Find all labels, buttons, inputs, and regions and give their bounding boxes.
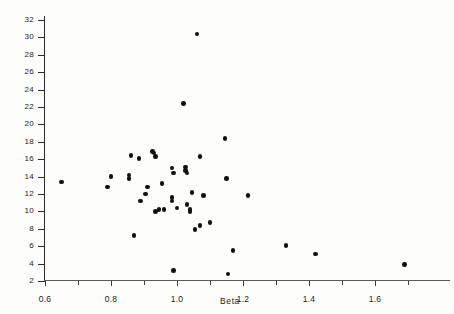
y-tick-mark	[38, 177, 44, 178]
y-tick-label: 28	[0, 50, 34, 60]
x-tick-mark	[111, 281, 112, 286]
y-tick-mark	[38, 211, 44, 212]
data-point	[226, 272, 231, 277]
data-point	[127, 176, 132, 181]
y-tick-mark	[38, 20, 44, 21]
y-tick-label: 32	[0, 15, 34, 25]
y-tick-label-text: 24	[4, 85, 34, 94]
y-tick-label-text: 12	[4, 189, 34, 198]
x-tick-mark	[309, 281, 310, 286]
x-tick-mark	[243, 281, 244, 286]
y-tick-label-text: 6	[4, 241, 34, 250]
y-tick-label-text: 18	[4, 137, 34, 146]
data-point	[109, 174, 114, 179]
y-tick-label: 22	[0, 102, 34, 112]
data-point	[170, 199, 175, 204]
x-minor-tick-mark	[276, 281, 277, 285]
y-tick-mark	[38, 90, 44, 91]
y-tick-mark	[38, 246, 44, 247]
data-point	[201, 193, 206, 198]
data-point	[198, 154, 203, 159]
y-tick-label: 4	[0, 259, 34, 269]
y-tick-label-text: 2	[4, 276, 34, 285]
data-point	[132, 233, 137, 238]
data-point	[231, 248, 236, 253]
y-tick-label-text: 4	[4, 259, 34, 268]
data-point	[224, 176, 229, 181]
data-point	[313, 252, 318, 257]
y-tick-mark	[38, 194, 44, 195]
data-point	[162, 207, 167, 212]
data-point	[171, 171, 176, 176]
y-tick-mark	[38, 37, 44, 38]
x-minor-tick-mark	[210, 281, 211, 285]
y-tick-label: 30	[0, 32, 34, 42]
data-point	[181, 101, 186, 106]
y-tick-mark	[38, 107, 44, 108]
data-point	[223, 136, 228, 141]
data-point	[59, 180, 64, 185]
data-point	[185, 171, 190, 176]
x-axis-line	[44, 280, 450, 281]
data-point	[284, 243, 289, 248]
x-minor-tick-mark	[408, 281, 409, 285]
data-point	[175, 206, 180, 211]
data-point	[170, 166, 175, 171]
y-tick-label: 8	[0, 224, 34, 234]
y-tick-mark	[38, 124, 44, 125]
y-tick-mark	[38, 281, 44, 282]
x-axis-title: Beta	[45, 296, 415, 306]
y-tick-label: 24	[0, 85, 34, 95]
y-tick-mark	[38, 159, 44, 160]
y-tick-label-text: 28	[4, 50, 34, 59]
x-axis-title-text: Beta	[220, 296, 240, 306]
y-tick-label-text: 16	[4, 154, 34, 163]
y-tick-label: 14	[0, 172, 34, 182]
data-point	[402, 262, 407, 267]
data-point	[145, 185, 150, 190]
y-tick-label-text: 30	[4, 32, 34, 41]
data-point	[160, 181, 165, 186]
data-point	[188, 209, 193, 214]
scatter-chart-figure: Expected Return (%) 24681012141618202224…	[0, 0, 454, 314]
y-tick-label: 6	[0, 241, 34, 251]
x-minor-tick-mark	[342, 281, 343, 285]
data-point	[105, 185, 110, 190]
data-point	[193, 227, 198, 232]
y-tick-label: 16	[0, 154, 34, 164]
data-point	[208, 220, 213, 225]
data-point	[195, 32, 200, 37]
x-tick-mark	[45, 281, 46, 286]
x-minor-tick-mark	[78, 281, 79, 285]
y-tick-mark	[38, 142, 44, 143]
y-tick-mark	[38, 55, 44, 56]
data-point	[153, 154, 158, 159]
data-point	[171, 268, 176, 273]
data-point	[138, 199, 143, 204]
y-tick-label: 26	[0, 67, 34, 77]
y-tick-label-text: 22	[4, 102, 34, 111]
data-point	[198, 223, 203, 228]
y-tick-label: 2	[0, 276, 34, 286]
y-tick-label: 18	[0, 137, 34, 147]
y-tick-label-text: 8	[4, 224, 34, 233]
y-axis-line	[44, 16, 45, 282]
data-point	[137, 156, 142, 161]
y-tick-label-text: 20	[4, 119, 34, 128]
y-tick-label-text: 26	[4, 67, 34, 76]
y-tick-label: 10	[0, 206, 34, 216]
y-tick-label-text: 14	[4, 172, 34, 181]
data-point	[246, 193, 251, 198]
x-tick-mark	[177, 281, 178, 286]
data-point	[143, 192, 148, 197]
data-point	[157, 207, 162, 212]
data-point	[129, 153, 134, 158]
y-tick-label-text: 32	[4, 15, 34, 24]
y-tick-label-text: 10	[4, 206, 34, 215]
x-tick-mark	[375, 281, 376, 286]
y-tick-mark	[38, 264, 44, 265]
y-tick-label: 20	[0, 119, 34, 129]
data-point	[190, 190, 195, 195]
x-minor-tick-mark	[144, 281, 145, 285]
y-tick-mark	[38, 229, 44, 230]
